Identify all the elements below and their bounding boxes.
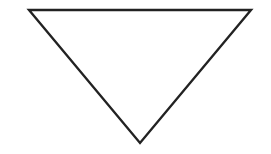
inverted-triangle-shape (29, 10, 251, 143)
diagram-canvas (0, 0, 271, 154)
